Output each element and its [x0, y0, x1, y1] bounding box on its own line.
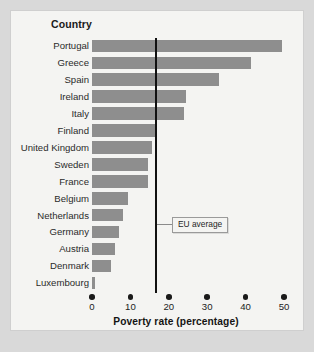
- bar-fill: [92, 175, 148, 187]
- bar-track: [92, 38, 303, 54]
- x-axis-tick-label: 50: [270, 301, 298, 312]
- bar-fill: [92, 243, 115, 255]
- bar-fill: [92, 226, 119, 238]
- x-axis-tick-label: 30: [193, 301, 221, 312]
- bar-row: Sweden: [11, 157, 303, 173]
- bar-fill: [92, 277, 95, 289]
- bar-row: Finland: [11, 123, 303, 139]
- bar-row: Germany: [11, 224, 303, 240]
- plot-area: PortugalGreeceSpainIrelandItalyFinlandUn…: [11, 11, 303, 330]
- bar-row: Spain: [11, 72, 303, 88]
- bar-row-label: Portugal: [11, 38, 89, 54]
- x-axis-tick-label: 20: [155, 301, 183, 312]
- chart-panel: Country PortugalGreeceSpainIrelandItalyF…: [11, 11, 303, 330]
- bar-row-label: Ireland: [11, 89, 89, 105]
- bar-row: United Kingdom: [11, 140, 303, 156]
- x-axis-tick-dot: [243, 294, 249, 300]
- bar-row-label: Germany: [11, 224, 89, 240]
- bar-fill: [92, 90, 186, 102]
- bar-track: [92, 106, 303, 122]
- x-axis-tick-dot: [128, 294, 134, 300]
- bar-row: Portugal: [11, 38, 303, 54]
- x-axis-tick-dot: [281, 294, 287, 300]
- bar-row-label: Austria: [11, 241, 89, 257]
- bar-row-label: Finland: [11, 123, 89, 139]
- bar-row-label: Netherlands: [11, 208, 89, 224]
- bar-row: Luxembourg: [11, 275, 303, 291]
- bar-fill: [92, 40, 282, 52]
- x-axis-tick-label: 10: [116, 301, 144, 312]
- bar-row-label: Italy: [11, 106, 89, 122]
- x-axis-title: Poverty rate (percentage): [11, 316, 303, 327]
- bar-track: [92, 157, 303, 173]
- eu-average-leader-line: [157, 224, 172, 225]
- bar-fill: [92, 107, 184, 119]
- x-axis: 01020304050Poverty rate (percentage): [11, 294, 303, 330]
- bar-row: Greece: [11, 55, 303, 71]
- bar-track: [92, 174, 303, 190]
- bar-track: [92, 191, 303, 207]
- bar-fill: [92, 209, 123, 221]
- bar-fill: [92, 124, 157, 136]
- bar-track: [92, 89, 303, 105]
- bar-row: Netherlands: [11, 208, 303, 224]
- bar-row: Denmark: [11, 258, 303, 274]
- bar-fill: [92, 141, 152, 153]
- bar-row: France: [11, 174, 303, 190]
- bar-row-label: Spain: [11, 72, 89, 88]
- bar-row-label: Greece: [11, 55, 89, 71]
- x-axis-tick-label: 0: [78, 301, 106, 312]
- bar-row: Austria: [11, 241, 303, 257]
- bar-row-label: United Kingdom: [11, 140, 89, 156]
- bar-row: Belgium: [11, 191, 303, 207]
- eu-average-callout-label: EU average: [172, 217, 228, 233]
- x-axis-tick-dot: [204, 294, 210, 300]
- x-axis-tick-label: 40: [232, 301, 260, 312]
- bar-row-label: Denmark: [11, 258, 89, 274]
- bar-track: [92, 241, 303, 257]
- bar-row-label: Belgium: [11, 191, 89, 207]
- bar-fill: [92, 57, 251, 69]
- bar-row-label: Sweden: [11, 157, 89, 173]
- bar-row: Ireland: [11, 89, 303, 105]
- bar-row: Italy: [11, 106, 303, 122]
- bar-track: [92, 55, 303, 71]
- bar-track: [92, 123, 303, 139]
- bar-fill: [92, 158, 148, 170]
- bar-track: [92, 72, 303, 88]
- bar-row-label: France: [11, 174, 89, 190]
- x-axis-tick-dot: [166, 294, 172, 300]
- bar-track: [92, 140, 303, 156]
- bar-fill: [92, 192, 128, 204]
- bar-fill: [92, 260, 111, 272]
- bar-track: [92, 275, 303, 291]
- bar-track: [92, 258, 303, 274]
- bar-row-label: Luxembourg: [11, 275, 89, 291]
- x-axis-tick-dot: [89, 294, 95, 300]
- eu-average-line: [155, 38, 157, 293]
